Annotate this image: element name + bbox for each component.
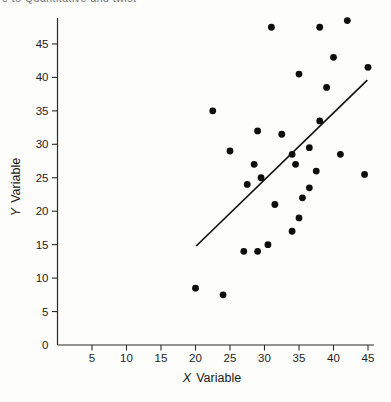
data-point xyxy=(265,241,272,248)
x-tick-label: 15 xyxy=(155,352,168,364)
data-point xyxy=(313,168,320,175)
x-axis-label: XVariable xyxy=(182,371,241,385)
x-tick-label: 35 xyxy=(293,352,306,364)
data-point xyxy=(209,107,216,114)
scatter-plot: 51015202530354045 510152025303540450 XVa… xyxy=(0,0,391,402)
x-tick-label: 20 xyxy=(189,352,202,364)
data-point xyxy=(289,151,296,158)
data-point xyxy=(292,161,299,168)
data-point xyxy=(306,184,313,191)
data-point xyxy=(271,201,278,208)
y-tick-label: 15 xyxy=(36,239,49,251)
data-point xyxy=(278,131,285,138)
y-tick-label: 40 xyxy=(36,71,49,83)
data-point xyxy=(192,285,199,292)
data-point xyxy=(254,128,261,135)
data-point xyxy=(220,291,227,298)
data-point xyxy=(316,24,323,31)
y-tick-label: 35 xyxy=(36,105,49,117)
x-tick-label: 45 xyxy=(362,352,375,364)
data-point xyxy=(254,248,261,255)
data-point xyxy=(258,174,265,181)
data-point xyxy=(344,17,351,24)
y-tick-label: 20 xyxy=(36,205,49,217)
regression-line xyxy=(196,80,367,246)
x-tick-label: 40 xyxy=(327,352,340,364)
figure-container: e to Quantitative and twist 510152025303… xyxy=(0,0,391,402)
y-tick-label: 30 xyxy=(36,138,49,150)
data-point xyxy=(330,54,337,61)
axes xyxy=(58,18,375,345)
data-point xyxy=(296,214,303,221)
data-point xyxy=(323,84,330,91)
data-point xyxy=(299,194,306,201)
data-point xyxy=(227,148,234,155)
y-tick-label: 25 xyxy=(36,172,49,184)
regression-line-group xyxy=(196,80,367,246)
x-tick-label: 5 xyxy=(89,352,95,364)
x-tick-label: 30 xyxy=(258,352,271,364)
data-point xyxy=(296,71,303,78)
y-axis-label: YVariable xyxy=(9,158,23,216)
data-point xyxy=(268,24,275,31)
y-tick-label: 10 xyxy=(36,272,49,284)
x-tick-label: 25 xyxy=(224,352,237,364)
x-axis-ticks: 51015202530354045 xyxy=(89,345,375,364)
x-tick-label: 10 xyxy=(120,352,133,364)
data-points xyxy=(192,17,371,298)
data-point xyxy=(361,171,368,178)
data-point xyxy=(251,161,258,168)
data-point xyxy=(337,151,344,158)
data-point xyxy=(244,181,251,188)
y-tick-label: 45 xyxy=(36,38,49,50)
data-point xyxy=(365,64,372,71)
data-point xyxy=(306,144,313,151)
y-tick-label: 5 xyxy=(42,306,48,318)
data-point xyxy=(240,248,247,255)
y-axis-ticks: 510152025303540450 xyxy=(36,38,58,351)
data-point xyxy=(316,117,323,124)
data-point xyxy=(289,228,296,235)
y-tick-label-zero: 0 xyxy=(42,339,48,351)
